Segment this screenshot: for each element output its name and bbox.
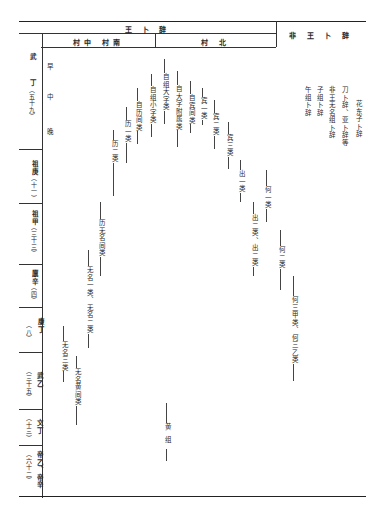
row-separator [19, 445, 42, 446]
row-separator [19, 203, 42, 204]
group-label: 宾一类 [199, 97, 206, 120]
group-label: 宾三类 [225, 134, 232, 157]
row-separator [19, 307, 42, 308]
period-wuyi-king: 武乙 [35, 372, 42, 387]
period-zugeng-king: 祖庚 [30, 160, 37, 175]
period-diyi-dixin-king: 帝乙、帝辛 [35, 451, 42, 489]
period-kangding-king: 康丁 [36, 318, 43, 333]
phase-early: 早 [45, 63, 52, 71]
period-diyi-dixin-years: （六十二） [25, 451, 32, 484]
header-non-royal-divinations: 非 王 卜 辞 [276, 30, 366, 40]
period-zujia-years: （三十三） [30, 224, 37, 257]
group-label: 历二类 [110, 140, 117, 163]
row-separator [19, 352, 42, 353]
nonroyal-zi-group: 子组卜辞 [315, 86, 322, 116]
group-label: 黄组 [163, 423, 170, 449]
row-separator [19, 264, 42, 265]
header-village-north: 村 北 [155, 37, 276, 47]
group-label: 出一类 [237, 170, 244, 193]
header-bottom-rule [41, 47, 276, 48]
bottom-rule [19, 496, 366, 497]
period-kangding-years: （八） [25, 322, 32, 342]
nonroyal-wu-group: 午组卜辞 [303, 86, 310, 116]
nonroyal-huadong-zi: 花东子卜辞 [354, 100, 361, 138]
group-label: 无名三类 [60, 341, 67, 371]
group-label: 何一类 [263, 186, 270, 209]
top-rule [19, 21, 366, 22]
group-label: 自宾间类 [187, 94, 194, 124]
nonroyal-feiwang-wuming: 非王无名组卜辞 [327, 86, 334, 139]
group-label: 出二类、出二类 [250, 214, 257, 267]
phase-middle: 中 [45, 93, 52, 101]
group-label: 自组大字类 [161, 73, 168, 111]
period-wuding-king: 武 [28, 53, 35, 61]
period-linxin-king: 廪辛 [30, 270, 37, 285]
group-label: 自组小字类 [148, 86, 155, 124]
group-label: 无名黄间类 [73, 368, 80, 406]
period-wuding-king-2: 丁 [28, 79, 35, 87]
group-label: 自历间类 [134, 101, 141, 131]
group-label: 宾二类 [211, 113, 218, 136]
period-wending-years: （十三） [25, 415, 32, 441]
group-label: 历一类 [123, 120, 130, 143]
header-village-south-middle: 村中 村南 [42, 37, 155, 47]
period-wuyi-years: （三十五） [25, 368, 32, 401]
group-label: 历无名间类 [97, 219, 104, 257]
header-royal-divinations: 王 卜 辞 [19, 24, 276, 34]
group-label: 何三甲类、何三乙类 [290, 296, 297, 364]
period-zugeng-years: （十一） [30, 175, 37, 201]
row-separator [19, 149, 42, 150]
nonroyal-dao-ya: 刀卜辞、亚卜辞等 [340, 86, 347, 146]
period-wuding-years: （五十九） [28, 87, 35, 120]
row-separator [19, 409, 42, 410]
group-label: 何二类 [277, 246, 284, 269]
group-label: 自大字附属类 [174, 85, 181, 130]
period-wending-king: 文丁 [35, 419, 42, 434]
phase-late: 晚 [45, 128, 52, 136]
period-zujia-king: 祖甲 [30, 210, 37, 225]
group-label: 无名一类、无名二类 [85, 266, 92, 334]
period-linxin-years: （四） [30, 284, 37, 304]
